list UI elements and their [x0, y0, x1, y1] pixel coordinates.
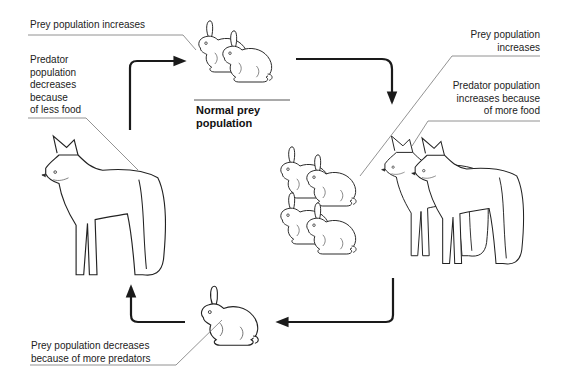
label-predator-increases: Predator population increases because of…	[453, 80, 540, 118]
normal-prey-rabbits	[199, 21, 272, 82]
label-predator-decreases: Predator population decreases because of…	[30, 54, 81, 117]
arrow-left-up-to-predator-decrease	[131, 287, 185, 322]
leader-top-left	[28, 35, 196, 50]
leader-right-mid	[412, 121, 540, 146]
decreased-predator-fox	[42, 136, 166, 275]
label-prey-increases-top: Prey population increases	[30, 19, 145, 32]
label-prey-increases-right: Prey population increases	[471, 29, 541, 54]
arrow-right-down-to-increase	[296, 59, 392, 102]
increased-predator-foxes	[382, 136, 524, 264]
decreased-prey-rabbit	[202, 286, 259, 345]
diagram-canvas	[0, 0, 568, 386]
arrow-down-left-to-decrease	[278, 278, 393, 322]
arrow-up-to-normal-prey	[130, 61, 184, 130]
normal-prey-population-label: Normal prey population	[196, 104, 260, 130]
label-prey-decreases: Prey population decreases because of mor…	[31, 340, 151, 365]
increased-prey-rabbits	[281, 147, 356, 254]
